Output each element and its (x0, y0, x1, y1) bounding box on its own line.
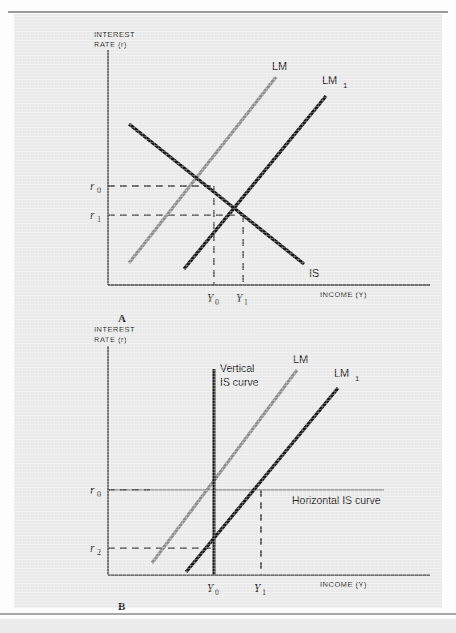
panel-a-letter: A (118, 312, 126, 324)
panel-b-xtick-y1: Y 1 (254, 582, 266, 597)
panel-b-ytick-r0: r 0 (90, 484, 101, 499)
svg-text:0: 0 (97, 490, 101, 499)
page-footer-band (0, 619, 456, 633)
panel-a-label-lm: LM (272, 60, 287, 72)
panel-a-curve-is (129, 124, 304, 264)
panel-b-xtick-y0: Y 0 (207, 582, 219, 597)
svg-text:r: r (90, 209, 95, 221)
svg-text:1: 1 (97, 215, 101, 224)
svg-text:1: 1 (244, 298, 248, 307)
svg-text:r: r (90, 542, 95, 554)
svg-text:Y: Y (207, 582, 215, 594)
panel-b-label-lm: LM (293, 353, 308, 365)
svg-text:2: 2 (97, 548, 101, 557)
svg-text:Vertical: Vertical (220, 362, 254, 374)
svg-text:1: 1 (355, 374, 360, 383)
panel-a-y-axis-title-line2: RATE (r) (94, 40, 127, 49)
panel-a-y-axis-title-line1: INTEREST (94, 30, 135, 39)
svg-text:Y: Y (254, 582, 262, 594)
svg-text:0: 0 (215, 588, 219, 597)
svg-text:r: r (90, 484, 95, 496)
svg-text:IS curve: IS curve (220, 376, 259, 388)
svg-text:0: 0 (97, 186, 101, 195)
panel-b-chart: INTEREST RATE (r) INCOME (Y) Vertical IS (14, 310, 442, 610)
svg-text:1: 1 (343, 81, 348, 90)
panel-b-letter: B (118, 600, 126, 612)
panel-a-xtick-y0: Y 0 (207, 292, 219, 307)
panel-b-label-lm1: LM 1 (334, 367, 360, 383)
panel-a-x-axis-title: INCOME (Y) (320, 290, 367, 299)
panel-a-xtick-y1: Y 1 (236, 292, 248, 307)
panel-b-y-axis-title-line2: RATE (r) (94, 335, 127, 344)
svg-text:r: r (90, 180, 95, 192)
svg-text:Y: Y (236, 292, 244, 304)
svg-text:0: 0 (215, 298, 219, 307)
panel-a-chart: INTEREST RATE (r) INCOME (Y) LM LM 1 (14, 14, 442, 314)
panel-a-label-lm1: LM 1 (322, 74, 348, 90)
panel-a-ytick-r1: r 1 (90, 209, 101, 224)
panel-b-annotation-horizontal-is: Horizontal IS curve (292, 494, 381, 506)
page-rule-bottom (0, 613, 456, 615)
panel-b-annotation-vertical-is: Vertical IS curve (220, 362, 259, 388)
panel-a-ytick-r0: r 0 (90, 180, 101, 195)
panel-a-curve-lm (129, 77, 276, 263)
svg-text:LM: LM (322, 74, 337, 86)
figure-root: INTEREST RATE (r) INCOME (Y) LM LM 1 (0, 0, 456, 633)
panel-a-label-is: IS (309, 267, 319, 279)
panel-b-x-axis-title: INCOME (Y) (320, 580, 367, 589)
panel-a-curve-lm1 (184, 96, 326, 269)
svg-text:Y: Y (207, 292, 215, 304)
figure-panel: INTEREST RATE (r) INCOME (Y) LM LM 1 (14, 14, 442, 608)
page-rule-top (8, 11, 448, 13)
svg-text:1: 1 (262, 588, 266, 597)
panel-b-ytick-r2: r 2 (90, 542, 101, 557)
svg-text:LM: LM (334, 367, 349, 379)
panel-b-y-axis-title-line1: INTEREST (94, 325, 135, 334)
